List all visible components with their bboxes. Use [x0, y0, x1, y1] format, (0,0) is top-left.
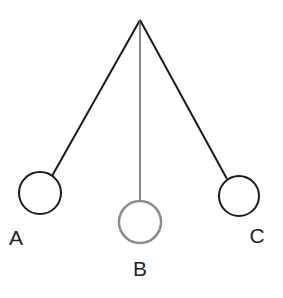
bob-c: [219, 176, 259, 216]
label-b: B: [133, 257, 147, 280]
pendulum-diagram: A B C: [0, 0, 283, 298]
string-c: [140, 20, 227, 179]
bob-b: [119, 201, 161, 243]
label-c: C: [249, 224, 264, 247]
label-a: A: [9, 226, 23, 249]
bob-a: [19, 172, 61, 214]
string-a: [52, 20, 140, 176]
